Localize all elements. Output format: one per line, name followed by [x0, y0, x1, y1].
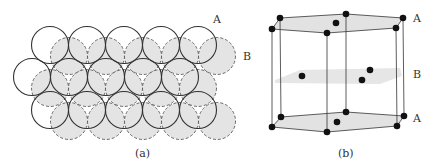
layer-b-atom: [199, 38, 236, 75]
panel-a-caption: (a): [135, 147, 150, 160]
hcp-diagram: A B (a) A B A (b): [0, 0, 438, 168]
panel-a-label-a: A: [212, 13, 222, 26]
panel-b-label-top-a: A: [412, 12, 422, 25]
hexagonal-prism: [269, 11, 408, 136]
layer-b-atom: [199, 103, 236, 140]
panel-b-label-bottom-a: A: [412, 112, 422, 125]
middle-plane-b: [275, 68, 402, 84]
panel-a-label-b: B: [243, 50, 251, 63]
panel-b-caption: (b): [338, 147, 354, 160]
panel-b-label-b: B: [413, 68, 421, 81]
